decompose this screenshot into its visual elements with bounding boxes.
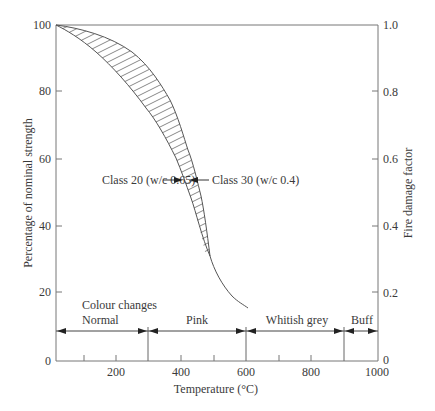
y2-axis-ticks — [372, 91, 378, 292]
chart: 100 80 60 40 20 0 1.0 0.8 0.6 0.4 0.2 0 … — [0, 0, 435, 411]
y-axis-labels: 100 80 60 40 20 0 — [33, 18, 51, 368]
x-tick-1000: 1000 — [365, 365, 389, 379]
band-label-buff: Buff — [351, 313, 373, 327]
y-axis-ticks — [56, 91, 62, 292]
band-dividers — [148, 327, 344, 361]
x-tick-200: 200 — [107, 365, 125, 379]
y-tick-40: 40 — [39, 219, 51, 233]
y2-tick-0.2: 0.2 — [383, 286, 398, 300]
y2-tick-0.6: 0.6 — [383, 152, 398, 166]
class-20-curve — [56, 25, 210, 256]
x-tick-400: 400 — [172, 365, 190, 379]
y-tick-100: 100 — [33, 18, 51, 32]
colour-changes-title: Colour changes — [82, 298, 157, 312]
class-30-curve — [56, 25, 248, 308]
x-tick-600: 600 — [237, 365, 255, 379]
band-arrows — [56, 328, 378, 334]
band-label-normal: Normal — [82, 313, 119, 327]
x-axis-title: Temperature (°C) — [174, 382, 258, 396]
y2-tick-0.4: 0.4 — [383, 219, 398, 233]
x-axis-labels: 200 400 600 800 1000 — [107, 365, 389, 379]
y2-axis-title: Fire damage factor — [401, 148, 415, 239]
y-tick-20: 20 — [39, 285, 51, 299]
class-30-label: Class 30 (w/c 0.4) — [212, 173, 299, 187]
y-tick-60: 60 — [39, 152, 51, 166]
y-tick-80: 80 — [39, 84, 51, 98]
x-axis-ticks — [84, 355, 311, 361]
y-tick-0: 0 — [45, 354, 51, 368]
x-tick-800: 800 — [302, 365, 320, 379]
y-axis-title: Percentage of nominal strength — [21, 118, 35, 268]
band-label-whitish-grey: Whitish grey — [266, 313, 328, 327]
y2-tick-0.8: 0.8 — [383, 85, 398, 99]
y2-tick-1.0: 1.0 — [383, 18, 398, 32]
y2-axis-labels: 1.0 0.8 0.6 0.4 0.2 0 — [383, 18, 398, 367]
band-label-pink: Pink — [186, 313, 208, 327]
